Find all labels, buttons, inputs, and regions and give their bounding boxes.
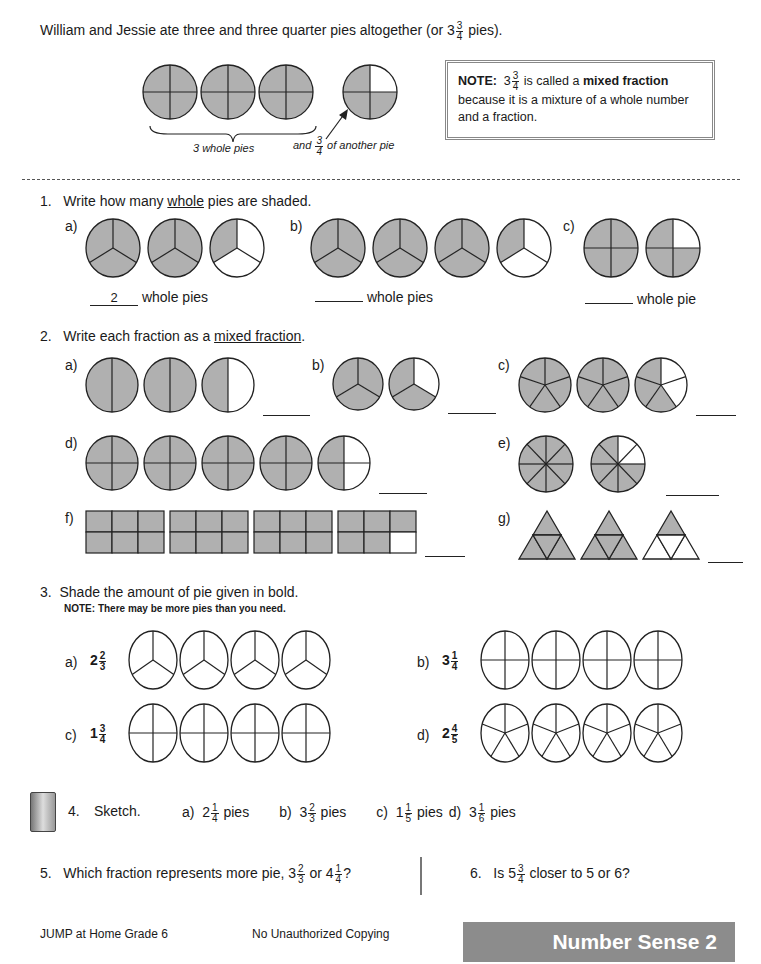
pie-icon (258, 64, 314, 120)
q1-prompt: 1. Write how many whole pies are shaded. (40, 193, 311, 209)
q2-part-b: b) (312, 357, 496, 414)
mixed-number: 223 (90, 651, 128, 672)
pie-icon (128, 703, 178, 763)
blank-pie[interactable] (633, 703, 683, 766)
pie-icon (209, 218, 265, 278)
blank-pie[interactable] (179, 630, 229, 693)
mixed-number: 314 (442, 651, 480, 672)
blank-pie[interactable] (281, 703, 331, 766)
pie-icon (582, 630, 632, 690)
pie-icon (434, 218, 490, 278)
pie-icon (582, 703, 632, 763)
blank-pie[interactable] (582, 703, 632, 766)
note-box: NOTE: 334 is called a mixed fraction bec… (445, 60, 715, 140)
blank-pie[interactable] (633, 630, 683, 693)
pie-icon (230, 630, 280, 690)
pie-icon (531, 630, 581, 690)
pie-icon (281, 630, 331, 690)
blank-pie[interactable] (480, 703, 530, 766)
blank-pie[interactable] (531, 703, 581, 766)
q2-part-e: e) (498, 435, 719, 496)
answer-blank[interactable] (263, 414, 310, 416)
part-label: c) (65, 727, 90, 743)
footer-center: No Unauthorized Copying (252, 927, 389, 941)
triangle-icon (580, 510, 638, 560)
answer-blank[interactable] (448, 412, 496, 414)
pie-icon (201, 435, 255, 491)
pie-icon (576, 357, 630, 413)
answer-blank[interactable] (708, 561, 743, 563)
notebook-icon (30, 792, 56, 832)
sketch-item: d) 316 pies (449, 803, 516, 824)
answer-field[interactable] (585, 303, 633, 304)
blank-pie[interactable] (128, 703, 178, 766)
pie-icon (179, 630, 229, 690)
blank-pie[interactable] (128, 630, 178, 693)
part-label: b) (290, 218, 310, 234)
caption-whole-pies: 3 whole pies (193, 142, 254, 154)
blank-pie[interactable] (230, 703, 280, 766)
blank-pie[interactable] (230, 630, 280, 693)
pie-icon (480, 630, 530, 690)
answer-field[interactable]: 2 (90, 291, 138, 306)
part-label: d) (65, 435, 85, 451)
answer-blank[interactable] (379, 492, 427, 494)
blank-pie[interactable] (531, 630, 581, 693)
part-label: d) (417, 727, 442, 743)
caption-another-pie: and 34 of another pie (293, 136, 394, 157)
answer-field[interactable] (315, 301, 363, 302)
blank-pie[interactable] (480, 630, 530, 693)
answer-blank[interactable] (666, 494, 719, 496)
q3-note: NOTE: There may be more pies than you ne… (64, 603, 286, 614)
mixed-number: 134 (90, 724, 128, 745)
sketch-item: b) 323 pies (279, 803, 346, 824)
q1-part-a: a) (65, 218, 271, 281)
blank-pie[interactable] (582, 630, 632, 693)
pie-icon (590, 435, 646, 493)
part-label: f) (65, 510, 85, 526)
q3-part-a: a)223 (65, 630, 332, 693)
mixed-number: 245 (442, 724, 480, 745)
part-label: b) (312, 357, 332, 373)
part-label: a) (65, 357, 85, 373)
sketch-item: a) 214 pies (182, 803, 249, 824)
q5-question: 5. Which fraction represents more pie, 3… (40, 864, 351, 885)
fraction: 34 (456, 21, 464, 42)
blank-pie[interactable] (179, 703, 229, 766)
pie-icon (310, 218, 366, 278)
q1-answer-a: 2 whole pies (90, 289, 208, 306)
pie-icon (143, 435, 197, 491)
pie-icon (143, 357, 197, 413)
pie-icon (480, 703, 530, 763)
answer-blank[interactable] (425, 555, 465, 557)
note-line-2: because it is a mixture of a whole numbe… (458, 92, 702, 109)
q6-question: 6. Is 534 closer to 5 or 6? (470, 864, 630, 885)
pie-icon (142, 64, 198, 120)
pie-icon (496, 218, 552, 278)
blank-pie[interactable] (281, 630, 331, 693)
pie-icon (633, 703, 683, 763)
pie-icon (518, 435, 574, 493)
q3-prompt: 3. Shade the amount of pie given in bold… (40, 584, 298, 600)
pie-icon (633, 630, 683, 690)
q1-part-c: c) (563, 218, 707, 281)
section-divider (22, 179, 740, 180)
q2-part-f: f) (65, 510, 465, 557)
pie-icon (128, 630, 178, 690)
q3-part-d: d)245 (417, 703, 684, 766)
part-label: c) (563, 218, 583, 234)
pie-icon (518, 357, 572, 413)
intro-text-end: pies). (468, 22, 502, 38)
part-label: g) (498, 510, 518, 526)
pie-icon (645, 218, 701, 278)
rectangle-icon (169, 510, 249, 554)
rectangle-icon (85, 510, 165, 554)
q2-part-d: d) (65, 435, 427, 494)
part-label: e) (498, 435, 518, 451)
note-line-3: and a fraction. (458, 109, 702, 126)
answer-blank[interactable] (696, 414, 736, 416)
pie-icon (259, 435, 313, 491)
pie-icon (531, 703, 581, 763)
pie-icon (85, 218, 141, 278)
section-title-bar: Number Sense 2 (463, 922, 735, 962)
